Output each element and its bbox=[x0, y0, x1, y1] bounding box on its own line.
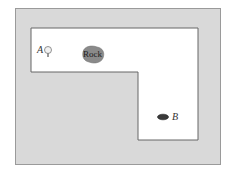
hole-icon bbox=[158, 114, 169, 120]
rock-label: Rock bbox=[83, 49, 102, 59]
point-a-label: A bbox=[37, 44, 43, 55]
point-b-label: B bbox=[172, 111, 178, 122]
fairway-l-shape bbox=[0, 0, 234, 169]
